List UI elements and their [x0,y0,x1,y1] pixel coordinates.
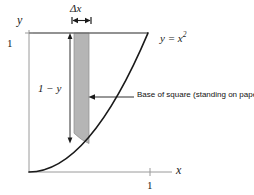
x-tick-label-one: 1 [147,180,153,191]
x-axis-label: x [176,164,181,176]
curve-equation-lhs: y = [160,32,175,44]
delta-x-dimension [72,17,91,24]
y-axis-label: y [17,14,22,26]
callout-arrow [89,94,135,100]
height-dimension [68,33,73,144]
delta-x-label: Δx [70,3,81,14]
curve-equation-exponent: 2 [183,30,187,39]
representative-strip [74,33,89,144]
strip-callout-label: Base of square (standing on paper) [137,91,254,99]
figure-canvas: y 1 Δx 1 − y y = x2 Base of square (stan… [0,0,254,195]
height-label: 1 − y [38,83,61,94]
y-tick-label-one: 1 [7,38,13,49]
curve-equation-label: y = x2 [160,33,186,44]
